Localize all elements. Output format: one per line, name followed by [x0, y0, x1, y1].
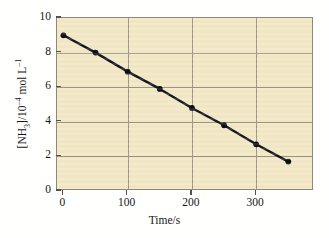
data-point-marker: [61, 32, 67, 38]
y-axis-tick-label: 8: [29, 46, 51, 58]
data-point-marker: [285, 159, 291, 165]
y-axis-tick-label: 6: [29, 80, 51, 92]
y-axis-tick-mark: [56, 155, 61, 156]
plot-area: [56, 17, 313, 190]
y-axis-species-close: ]/10: [16, 105, 28, 124]
y-axis-tick-mark: [56, 86, 61, 87]
data-point-marker: [253, 141, 259, 147]
y-axis-exponent-one: –4: [14, 97, 23, 105]
chart-figure: 02468100100200300 Time/s [NH3]/10–4 mol …: [0, 0, 329, 238]
y-axis-tick-label: 2: [29, 149, 51, 161]
y-axis-tick-label: 4: [29, 115, 51, 127]
y-axis-species-subscript: 3: [23, 124, 32, 128]
data-point-marker: [221, 122, 227, 128]
y-axis-tick-mark: [56, 120, 61, 121]
y-axis-tick-label: 10: [29, 11, 51, 23]
y-axis-tick-mark: [56, 51, 61, 52]
y-axis-tick-mark: [56, 16, 61, 17]
x-axis-tick-label: 200: [171, 197, 211, 209]
y-axis-units: mol L: [16, 67, 28, 98]
x-axis-tick-mark: [190, 190, 191, 195]
x-axis-title: Time/s: [0, 214, 329, 226]
y-axis-tick-mark: [56, 189, 61, 190]
y-axis-tick-label: 0: [29, 184, 51, 196]
data-point-marker: [93, 50, 99, 56]
y-axis-species-open: [NH: [16, 128, 28, 148]
y-axis-exponent-two: –1: [14, 59, 23, 67]
x-axis-tick-mark: [126, 190, 127, 195]
data-point-marker: [125, 69, 131, 75]
x-axis-tick-label: 300: [235, 197, 275, 209]
data-point-marker: [157, 86, 163, 92]
x-axis-tick-label: 100: [107, 197, 147, 209]
x-axis-tick-mark: [62, 190, 63, 195]
data-series-layer: [57, 18, 313, 190]
y-axis-title: [NH3]/10–4 mol L–1: [14, 19, 31, 189]
x-axis-tick-mark: [255, 190, 256, 195]
x-axis-tick-label: 0: [42, 197, 82, 209]
data-point-marker: [189, 105, 195, 111]
